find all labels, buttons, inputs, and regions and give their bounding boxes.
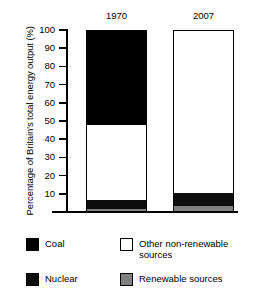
y-axis-tick-label: 50 [19,116,55,126]
y-axis-tick-label: 80 [19,61,55,71]
legend-label: Other non-renewable sources [139,238,262,260]
plot-area: 19702007 [66,30,238,212]
stacked-bar-chart: Percentage of Britain's total energy out… [0,0,267,302]
bar-segment[interactable] [87,31,146,125]
y-axis-tick-label: 20 [19,171,55,181]
bar-category-label: 2007 [173,11,234,21]
y-axis-tick-label: 70 [19,80,55,90]
legend-item[interactable]: Nuclear [26,273,120,286]
bar-segment[interactable] [174,193,233,206]
bar-segment[interactable] [174,31,233,193]
y-axis-tick-label: 100 [19,25,55,35]
legend-swatch-icon [120,238,133,251]
bar-segment[interactable] [87,125,146,201]
bar-group[interactable]: 1970 [86,30,147,212]
legend-swatch-icon [120,273,133,286]
legend-item[interactable]: Renewable sources [120,273,262,286]
legend-item[interactable]: Other non-renewable sources [120,238,262,260]
legend-swatch-icon [26,238,39,251]
y-axis-tick-label: 40 [19,134,55,144]
bar-segment[interactable] [87,209,146,211]
y-axis-tick-label: 90 [19,43,55,53]
legend-label: Renewable sources [139,273,222,284]
y-axis-tick-label: 10 [19,189,55,199]
legend-swatch-icon [26,273,39,286]
y-axis-tick-label: 60 [19,98,55,108]
bar-segment[interactable] [87,200,146,209]
bar-segment[interactable] [174,206,233,211]
chart-legend: CoalOther non-renewable sourcesNuclearRe… [26,238,262,286]
legend-label: Nuclear [45,273,78,284]
y-axis-tick-label: 30 [19,152,55,162]
bar-group[interactable]: 2007 [173,30,234,212]
bar-column[interactable] [86,30,147,212]
bar-category-label: 1970 [86,11,147,21]
bar-column[interactable] [173,30,234,212]
legend-label: Coal [45,238,65,249]
legend-item[interactable]: Coal [26,238,120,260]
